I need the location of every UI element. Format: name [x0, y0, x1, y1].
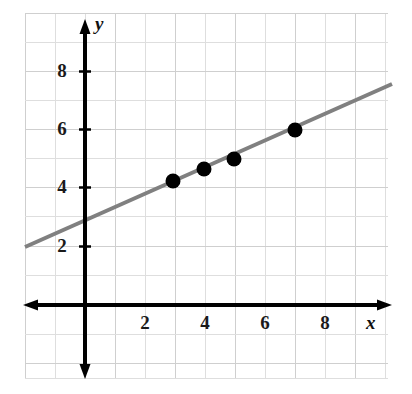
x-tick-label-2: 2: [135, 313, 155, 332]
x-axis: [23, 300, 392, 311]
y-tick-label-8: 8: [52, 61, 72, 80]
graph-figure: 8 6 4 2 2 4 6 8 y x: [0, 0, 412, 394]
data-point: [288, 123, 303, 138]
x-axis-label: x: [366, 313, 376, 332]
y-axis: [80, 19, 91, 379]
data-point: [166, 174, 181, 189]
y-tick-label-4: 4: [52, 177, 72, 196]
x-tick-label-4: 4: [195, 313, 215, 332]
y-axis-label: y: [95, 14, 103, 33]
y-tick-label-6: 6: [52, 119, 72, 138]
data-point: [227, 152, 242, 167]
x-tick-label-6: 6: [255, 313, 275, 332]
data-point: [197, 162, 212, 177]
y-tick-label-2: 2: [52, 236, 72, 255]
x-tick-label-8: 8: [315, 313, 335, 332]
